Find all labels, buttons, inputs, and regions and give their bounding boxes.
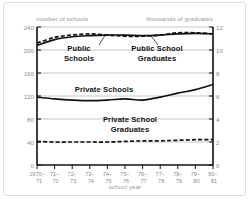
x-label-bottom-5: 76 — [123, 178, 129, 184]
x-label-top-2: 72– — [68, 171, 78, 177]
chart-svg: number of schools thousands of graduates… — [0, 0, 251, 200]
left-label-240: 240 — [24, 24, 35, 31]
right-label-12: 12 — [216, 24, 223, 31]
x-label-bottom-9: 80 — [193, 178, 199, 184]
annot-public-schools-line1: Public — [67, 44, 90, 53]
x-label-top-1: 71– — [50, 171, 60, 177]
x-label-bottom-2: 73 — [70, 178, 76, 184]
right-label-0: 0 — [216, 162, 220, 169]
x-axis-title: school year — [109, 183, 142, 190]
x-label-top-4: 74– — [103, 171, 113, 177]
right-label-8: 8 — [216, 70, 220, 77]
right-label-6: 6 — [216, 93, 220, 100]
x-label-bottom-6: 77 — [140, 178, 146, 184]
x-label-top-7: 77– — [156, 171, 166, 177]
chart-figure: number of schools thousands of graduates… — [0, 0, 251, 200]
x-label-bottom-7: 78 — [158, 178, 164, 184]
x-tick-labels: 1970– 71 71– 72 72– 73 73– 74 74– 75 75–… — [29, 171, 218, 184]
x-label-top-9: 79– — [191, 171, 201, 177]
x-label-bottom-8: 79 — [176, 178, 182, 184]
left-label-80: 80 — [27, 116, 34, 123]
x-label-top-10: 80– — [208, 171, 218, 177]
left-tick-labels: 240 200 160 120 80 40 0 — [24, 24, 35, 169]
annot-private-schools: Private Schools — [75, 85, 133, 94]
x-label-top-8: 78– — [173, 171, 183, 177]
x-label-top-3: 73– — [85, 171, 95, 177]
x-label-top-6: 76– — [138, 171, 148, 177]
x-label-bottom-4: 75 — [105, 178, 111, 184]
annot-public-grads-line1: Public School — [131, 44, 183, 53]
x-label-bottom-3: 74 — [88, 178, 94, 184]
right-label-10: 10 — [216, 47, 223, 54]
plot-annotations: Public Schools Public School Graduates P… — [64, 44, 183, 134]
left-label-40: 40 — [27, 139, 34, 146]
x-label-top-0: 1970– — [29, 171, 45, 177]
annot-public-grads-line2: Graduates — [138, 54, 176, 63]
x-label-bottom-0: 71 — [36, 178, 42, 184]
left-label-160: 160 — [24, 70, 35, 77]
annot-private-grads-line2: Graduates — [111, 125, 149, 134]
right-axis-title: thousands of graduates — [146, 15, 213, 22]
annot-private-grads-line1: Private School — [103, 115, 157, 124]
x-label-bottom-1: 72 — [52, 178, 58, 184]
x-label-bottom-10: 81 — [211, 178, 217, 184]
annot-public-schools-line2: Schools — [64, 54, 94, 63]
left-label-200: 200 — [24, 47, 35, 54]
left-axis-title: number of schools — [36, 15, 88, 22]
x-label-top-5: 75– — [120, 171, 130, 177]
right-label-4: 4 — [216, 116, 220, 123]
left-label-0: 0 — [31, 162, 35, 169]
left-label-120: 120 — [24, 93, 35, 100]
right-tick-labels: 12 10 8 6 4 2 0 — [216, 24, 223, 169]
right-label-2: 2 — [216, 139, 220, 146]
